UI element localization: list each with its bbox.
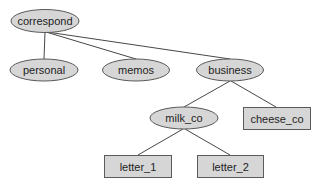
edge-milk-co-letter-1 (138, 129, 183, 155)
edge-business-milk-co (184, 81, 230, 107)
node-label: business (208, 64, 252, 76)
node-label: letter_2 (212, 161, 249, 173)
node-correspond[interactable]: correspond (11, 10, 79, 33)
node-label: personal (23, 64, 65, 76)
node-cheese-co[interactable]: cheese_co (244, 108, 311, 130)
edge-milk-co-letter-2 (185, 129, 230, 155)
edge-business-cheese-co (231, 81, 276, 107)
node-personal[interactable]: personal (10, 59, 78, 81)
diagram-svg: correspond personal memos business milk_… (0, 0, 321, 191)
node-letter-1[interactable]: letter_1 (105, 156, 172, 178)
node-label: correspond (17, 15, 72, 27)
node-memos[interactable]: memos (103, 59, 170, 81)
node-business[interactable]: business (197, 59, 264, 81)
node-label: memos (118, 64, 155, 76)
node-milk-co[interactable]: milk_co (150, 107, 218, 129)
edge-correspond-business (47, 32, 230, 59)
node-letter-2[interactable]: letter_2 (198, 156, 264, 178)
node-label: cheese_co (250, 113, 303, 125)
edge-correspond-memos (46, 32, 136, 59)
edge-correspond-personal (44, 32, 45, 59)
node-label: letter_1 (120, 161, 157, 173)
directory-tree-diagram: correspond personal memos business milk_… (0, 0, 321, 191)
edges (44, 32, 276, 155)
node-label: milk_co (165, 112, 202, 124)
